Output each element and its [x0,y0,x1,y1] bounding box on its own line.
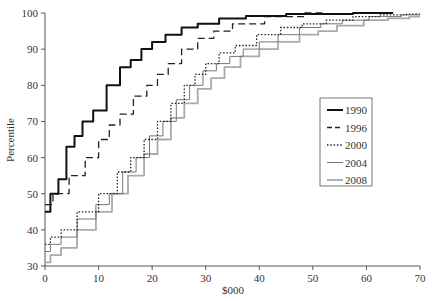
y-tick-label: 60 [27,152,39,164]
x-tick-label: 10 [93,272,105,284]
y-tick-label: 80 [27,79,39,91]
legend-label: 2008 [345,174,368,186]
x-tick-label: 30 [200,272,212,284]
x-tick-label: 20 [147,272,159,284]
x-tick-label: 70 [415,272,427,284]
x-tick-label: 50 [307,272,319,284]
x-tick-label: 0 [42,272,48,284]
legend-label: 2004 [345,157,368,169]
percentile-line-chart: 30405060708090100010203040506070 1990199… [0,0,432,301]
y-tick-label: 30 [27,260,39,272]
x-axis-title: $000 [222,284,245,296]
y-tick-label: 70 [27,115,39,127]
legend-label: 2000 [345,139,368,151]
x-tick-label: 60 [361,272,373,284]
y-tick-label: 40 [27,224,39,236]
y-axis-title: Percentile [4,118,16,162]
legend-label: 1990 [345,104,368,116]
y-tick-label: 100 [22,7,39,19]
y-tick-label: 50 [27,188,39,200]
x-tick-label: 40 [254,272,266,284]
legend: 19901996200020042008 [320,98,372,186]
y-tick-label: 90 [27,43,39,55]
legend-label: 1996 [345,122,368,134]
